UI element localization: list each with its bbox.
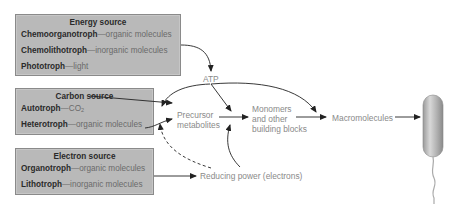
- rod-bacterium-icon: [423, 95, 443, 204]
- flow-arrows: [0, 0, 457, 208]
